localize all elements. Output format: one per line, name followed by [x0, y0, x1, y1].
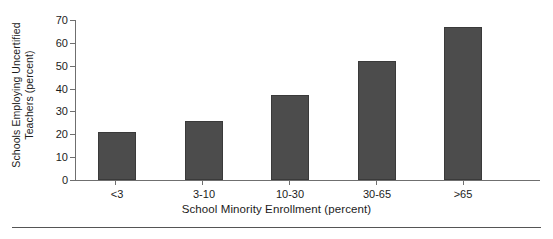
y-tick-label-10: 10 [56, 151, 68, 163]
bar-3-10 [185, 121, 223, 180]
y-tick-label-30: 30 [56, 105, 68, 117]
y-tick-label-0: 0 [62, 174, 68, 186]
y-axis-line [75, 20, 76, 181]
y-tick-label-70: 70 [56, 14, 68, 26]
x-tick-label-3-10: 3-10 [193, 188, 215, 200]
y-tick-label-20: 20 [56, 128, 68, 140]
x-tick-1 [115, 181, 116, 185]
x-tick-4 [376, 181, 377, 185]
x-axis-line [75, 180, 540, 181]
x-tick-label-lt3: <3 [111, 188, 124, 200]
y-tick-label-50: 50 [56, 60, 68, 72]
y-axis-title: Schools Employing Uncertified Teachers (… [0, 0, 46, 190]
bar-lt3 [98, 132, 136, 180]
x-tick-label-10-30: 10-30 [276, 188, 304, 200]
y-tick-label-40: 40 [56, 83, 68, 95]
plot-area: 0 10 20 30 40 50 60 70 [75, 20, 540, 180]
x-axis-title: School Minority Enrollment (percent) [0, 203, 553, 215]
bar-chart-figure: Schools Employing Uncertified Teachers (… [0, 0, 553, 239]
x-tick-3 [289, 181, 290, 185]
bottom-divider [12, 227, 541, 228]
bar-30-65 [358, 61, 396, 180]
bar-10-30 [271, 95, 309, 180]
y-axis-title-line-2: Teachers (percent) [23, 22, 36, 167]
y-axis-title-line-1: Schools Employing Uncertified [10, 22, 23, 167]
bar-gt65 [444, 27, 482, 180]
y-tick-label-60: 60 [56, 37, 68, 49]
x-tick-label-gt65: >65 [454, 188, 473, 200]
x-tick-2 [202, 181, 203, 185]
x-tick-5 [463, 181, 464, 185]
x-tick-label-30-65: 30-65 [363, 188, 391, 200]
